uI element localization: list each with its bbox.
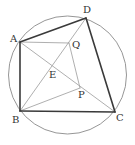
circumscribed-circle [9, 16, 127, 134]
label-p: P [78, 89, 85, 100]
label-c: C [116, 112, 124, 123]
label-d: D [83, 4, 91, 15]
segment-bd [20, 18, 86, 111]
point-labels: A B C D E P Q [9, 4, 124, 125]
segment-cb [20, 111, 115, 112]
label-b: B [12, 114, 19, 125]
segment-dc [86, 18, 115, 112]
geometry-diagram: A B C D E P Q [0, 0, 135, 145]
label-e: E [49, 69, 56, 80]
quadrilateral-edges [20, 18, 115, 112]
segment-aq [20, 42, 69, 43]
segment-ac [20, 42, 115, 112]
label-q: Q [72, 39, 80, 50]
label-a: A [9, 33, 18, 44]
segment-bp [20, 88, 80, 111]
